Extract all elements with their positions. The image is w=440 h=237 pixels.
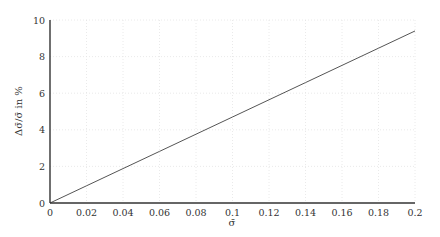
y-tick-label: 0	[39, 198, 45, 209]
x-axis-label: σ̄	[229, 217, 236, 228]
y-tick-label: 4	[39, 124, 45, 135]
x-tick-label: 0.18	[368, 207, 389, 218]
y-tick-label: 2	[39, 161, 45, 172]
y-tick-label: 6	[39, 88, 45, 99]
x-tick-label: 0	[47, 207, 53, 218]
y-axis-label: Δσ̄/σ̄ in %	[13, 86, 24, 136]
x-tick-label: 0.08	[185, 207, 206, 218]
y-tick-label: 8	[39, 51, 45, 62]
x-tick-label: 0.16	[331, 207, 352, 218]
x-tick-label: 0.2	[407, 207, 422, 218]
x-tick-label: 0.02	[76, 207, 97, 218]
x-tick-label: 0.04	[112, 207, 133, 218]
x-tick-label: 0.14	[295, 207, 316, 218]
x-tick-label: 0.06	[149, 207, 170, 218]
y-tick-labels: 0246810	[33, 15, 45, 209]
y-tick-label: 10	[33, 15, 45, 26]
line-chart: 00.020.040.060.080.10.120.140.160.180.2 …	[0, 0, 440, 237]
x-tick-label: 0.12	[258, 207, 279, 218]
grid-lines	[50, 20, 415, 203]
